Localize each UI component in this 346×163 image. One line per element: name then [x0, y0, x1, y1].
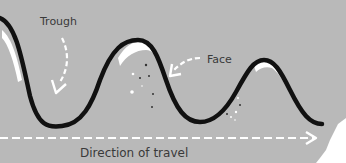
direction-label: Direction of travel	[80, 146, 188, 160]
face-label: Face	[207, 53, 232, 66]
wave-diagram: Trough Face Direction of travel	[0, 0, 346, 163]
trough-label: Trough	[39, 15, 77, 28]
